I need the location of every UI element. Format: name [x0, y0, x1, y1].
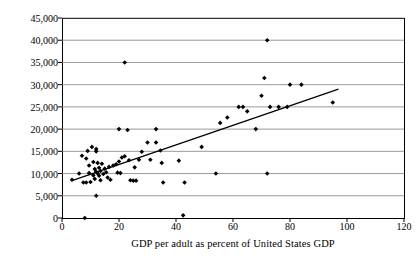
data-point [241, 105, 246, 110]
x-axis-tick-label: 40 [156, 221, 196, 232]
scatter-chart: Median Earnings 05,00010,00015,00020,000… [0, 0, 420, 260]
data-point [140, 149, 145, 154]
data-point [330, 100, 335, 105]
data-point [182, 180, 187, 185]
data-point [254, 127, 259, 132]
data-point [199, 145, 204, 150]
data-point [122, 60, 127, 65]
data-point [145, 140, 150, 145]
data-point [159, 161, 164, 166]
data-point [100, 161, 105, 166]
x-axis-tick-label: 0 [42, 221, 82, 232]
data-point [265, 171, 270, 176]
data-point [84, 180, 89, 185]
data-point [125, 128, 130, 133]
x-axis-tick-label: 80 [270, 221, 310, 232]
data-point [98, 178, 103, 183]
x-axis-tick-label: 100 [327, 221, 367, 232]
data-point [77, 171, 82, 176]
data-point [285, 105, 290, 110]
x-axis-title: GDP per adult as percent of United State… [62, 238, 404, 249]
data-point [154, 140, 159, 145]
data-point [70, 177, 75, 182]
data-point [268, 105, 273, 110]
data-point [161, 180, 166, 185]
data-point [80, 153, 85, 158]
data-point [177, 158, 182, 163]
data-point [91, 160, 96, 165]
x-axis-tick-label: 20 [99, 221, 139, 232]
data-point [218, 121, 223, 126]
data-point [117, 127, 122, 132]
data-point [94, 193, 99, 198]
data-point [88, 180, 93, 185]
data-point [259, 93, 264, 98]
data-point [85, 149, 90, 154]
data-point [154, 127, 159, 132]
x-axis-tick-label: 60 [213, 221, 253, 232]
data-point [134, 178, 139, 183]
trend-line [72, 89, 338, 181]
data-point [148, 157, 153, 162]
data-point [158, 148, 163, 153]
data-point [299, 82, 304, 87]
x-axis-tick-label: 120 [384, 221, 420, 232]
data-point [95, 161, 100, 166]
data-point [236, 105, 241, 110]
data-point [84, 156, 89, 161]
data-point [87, 163, 92, 168]
data-point [262, 76, 267, 81]
data-point [214, 171, 219, 176]
data-point [225, 115, 230, 120]
data-point [83, 216, 88, 221]
data-point [288, 82, 293, 87]
data-point [90, 145, 95, 150]
data-point [181, 213, 186, 218]
data-point [118, 171, 123, 176]
data-point [245, 109, 250, 114]
data-point [132, 165, 137, 170]
data-point [265, 38, 270, 43]
